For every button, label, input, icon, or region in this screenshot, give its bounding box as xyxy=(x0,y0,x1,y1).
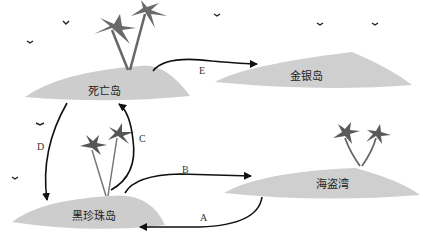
edge-c xyxy=(111,104,134,190)
island-label-gold: 金银岛 xyxy=(290,67,323,83)
edge-d xyxy=(46,103,67,200)
diagram-canvas xyxy=(0,0,423,242)
edge-label-d: D xyxy=(37,141,44,152)
island-label-pirate-bay: 海盗湾 xyxy=(316,175,349,191)
palm-leaves-icon xyxy=(333,122,391,144)
palm-leaves-icon xyxy=(94,0,167,44)
bird-icon xyxy=(36,123,44,125)
island-label-black-pearl: 黑珍珠岛 xyxy=(72,207,116,223)
edge-label-c: C xyxy=(139,133,146,144)
edge-label-a: A xyxy=(200,212,207,223)
palm-leaves-icon xyxy=(80,123,134,155)
palm-tree-icon xyxy=(345,138,376,166)
bird-icon xyxy=(372,23,378,25)
edge-label-b: B xyxy=(182,164,189,175)
bird-icon xyxy=(63,21,69,24)
bird-icon xyxy=(27,41,33,43)
island-label-death: 死亡岛 xyxy=(88,82,121,98)
edge-label-e: E xyxy=(199,65,205,76)
bird-icon xyxy=(12,177,18,179)
bird-icon xyxy=(317,23,323,25)
bird-icon xyxy=(214,14,220,16)
